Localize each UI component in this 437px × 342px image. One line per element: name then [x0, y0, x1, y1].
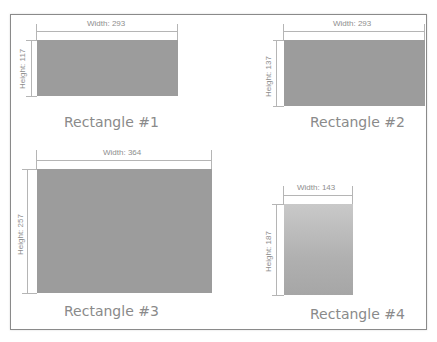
height-label: Height: 117	[18, 49, 27, 89]
height-dimension-line	[276, 204, 277, 296]
width-tick-left	[283, 24, 284, 40]
height-tick-bottom	[22, 293, 37, 294]
width-dimension-line	[283, 31, 425, 32]
width-label: Width: 143	[297, 183, 335, 192]
height-tick-top	[272, 204, 284, 205]
height-tick-top	[22, 169, 37, 170]
rectangle-title: Rectangle #2	[310, 114, 405, 130]
height-tick-bottom	[272, 295, 284, 296]
height-label: Height: 137	[264, 56, 273, 97]
width-label: Width: 293	[87, 19, 125, 28]
height-tick-bottom	[273, 106, 284, 107]
width-label: Width: 364	[103, 148, 141, 157]
rectangle-1	[37, 40, 178, 96]
width-dimension-line	[36, 31, 178, 32]
rectangle-title: Rectangle #1	[64, 114, 159, 130]
width-label: Width: 293	[333, 19, 371, 28]
width-tick-right	[177, 24, 178, 40]
rectangle-2	[284, 40, 425, 106]
height-tick-top	[273, 40, 284, 41]
height-label: Height: 257	[16, 214, 25, 255]
height-dimension-line	[27, 169, 28, 294]
width-dimension-line	[283, 195, 353, 196]
height-dimension-line	[31, 40, 32, 97]
rectangle-4	[284, 204, 353, 295]
height-dimension-line	[276, 40, 277, 107]
width-tick-left	[36, 24, 37, 40]
rectangle-3	[37, 169, 212, 293]
rectangle-title: Rectangle #3	[64, 303, 159, 319]
height-label: Height: 187	[264, 231, 273, 272]
width-tick-right	[424, 24, 425, 40]
rectangle-title: Rectangle #4	[310, 306, 405, 322]
width-dimension-line	[36, 160, 212, 161]
